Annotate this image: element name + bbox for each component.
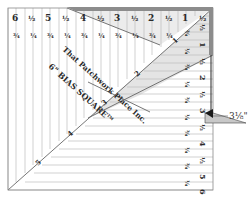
svg-text:½: ½	[97, 14, 104, 23]
svg-text:½: ½	[62, 14, 69, 23]
svg-text:1: 1	[182, 13, 188, 23]
svg-text:¼: ¼	[64, 32, 71, 40]
svg-text:2: 2	[148, 13, 154, 23]
svg-text:¾: ¾	[184, 64, 191, 71]
svg-text:½: ½	[165, 14, 172, 23]
svg-text:¾: ¾	[184, 163, 191, 170]
svg-text:¾: ¾	[184, 97, 191, 104]
svg-text:2: 2	[198, 75, 208, 81]
svg-text:¾: ¾	[47, 32, 54, 40]
measurement-callout: 3⅛"	[229, 111, 248, 121]
svg-text:¾: ¾	[184, 130, 191, 137]
svg-text:¼: ¼	[132, 32, 139, 40]
svg-text:4: 4	[198, 141, 208, 147]
svg-text:½: ½	[198, 91, 206, 98]
right-minor-labels: ¾ ¼ ¾ ¼ ¾ ¼ ¾ ¼ ¾ ¼	[184, 30, 191, 187]
svg-text:6: 6	[198, 189, 208, 195]
svg-text:1: 1	[198, 42, 208, 48]
svg-text:½: ½	[28, 14, 35, 23]
svg-text:¼: ¼	[98, 32, 105, 40]
svg-text:¼: ¼	[184, 114, 191, 121]
svg-text:½: ½	[198, 124, 206, 131]
svg-text:4: 4	[65, 128, 75, 138]
svg-text:¾: ¾	[115, 32, 122, 40]
svg-text:¼: ¼	[184, 48, 191, 55]
svg-text:5: 5	[45, 13, 51, 23]
right-edge-band	[209, 7, 213, 55]
svg-text:¾: ¾	[13, 32, 20, 40]
svg-text:¾: ¾	[184, 30, 191, 37]
svg-text:¾: ¾	[81, 32, 88, 40]
svg-text:3: 3	[114, 13, 120, 23]
svg-text:5: 5	[198, 174, 208, 180]
svg-text:¼: ¼	[184, 81, 191, 88]
svg-text:½: ½	[131, 14, 138, 23]
svg-text:½: ½	[198, 58, 206, 65]
svg-text:½: ½	[199, 14, 206, 23]
svg-text:½: ½	[198, 157, 206, 164]
svg-text:¼: ¼	[184, 147, 191, 154]
bias-square-ruler: 6 ½ 5 ½ 4 ½ 3 ½ 2 ½ 1 ½ ¾ ¼ ¾ ¼ ¾ ¼ ¾ ¼ …	[0, 0, 250, 209]
svg-text:¼: ¼	[30, 32, 37, 40]
svg-text:¼: ¼	[184, 180, 191, 187]
svg-text:6: 6	[12, 13, 18, 23]
ruler-name-label: 6" BIAS SQUARETM	[47, 61, 116, 125]
svg-text:½: ½	[198, 24, 206, 31]
svg-text:¾: ¾	[149, 32, 156, 40]
top-edge-band	[67, 7, 213, 11]
svg-text:4: 4	[80, 13, 86, 23]
